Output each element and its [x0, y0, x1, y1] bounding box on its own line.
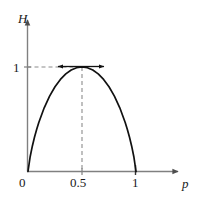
plot-canvas: [0, 0, 197, 199]
x-tick-label-1: 1: [132, 176, 139, 189]
y-axis-label: H: [18, 12, 27, 25]
x-tick-label-05: 0.5: [70, 176, 86, 189]
x-axis-label: p: [182, 177, 189, 190]
x-tick-label-0: 0: [19, 176, 26, 189]
y-tick-label-1: 1: [13, 61, 20, 74]
entropy-figure: H p 1 0 0.5 1: [0, 0, 197, 199]
